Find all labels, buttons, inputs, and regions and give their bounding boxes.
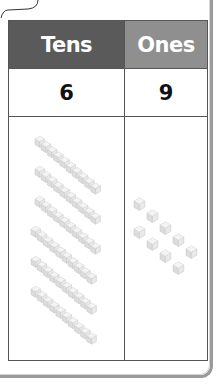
header-tens: Tens xyxy=(9,21,125,68)
tens-rods-icon xyxy=(9,117,124,362)
unit-cubes-icon xyxy=(125,117,207,362)
header-ones: Ones xyxy=(125,21,207,68)
tens-blocks-cell xyxy=(9,116,125,360)
place-value-chart: Tens Ones 6 9 xyxy=(8,20,208,361)
ones-blocks-cell xyxy=(125,116,207,360)
value-ones: 9 xyxy=(125,68,207,116)
value-tens: 6 xyxy=(9,68,125,116)
speech-bubble-edge-icon xyxy=(0,0,45,20)
